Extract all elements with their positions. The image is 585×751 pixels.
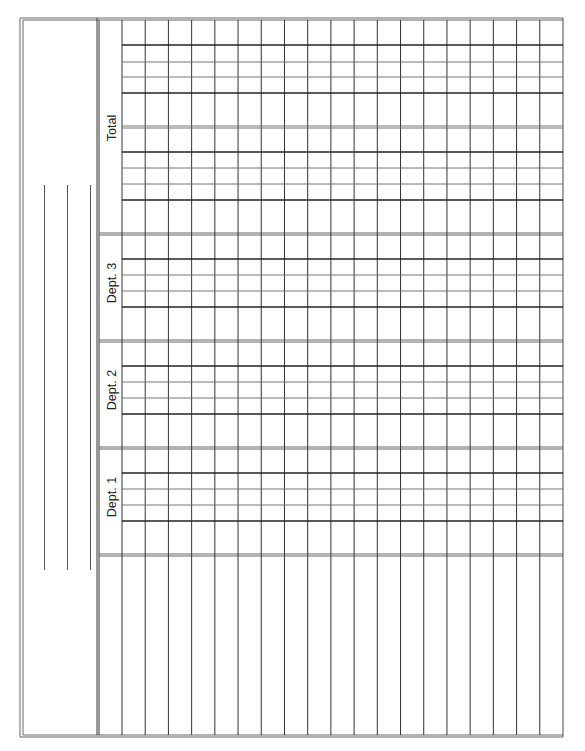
ledger-grid bbox=[0, 0, 585, 751]
ledger-form: TotalDept. 3Dept. 2Dept. 1 bbox=[0, 0, 585, 751]
section-label-dept-3: Dept. 3 bbox=[105, 263, 119, 303]
section-label-dept-2: Dept. 2 bbox=[105, 370, 119, 410]
header-entry-line[interactable] bbox=[90, 185, 91, 570]
header-entry-line[interactable] bbox=[67, 185, 68, 570]
section-label-dept-1: Dept. 1 bbox=[105, 477, 119, 517]
header-entry-line[interactable] bbox=[44, 185, 45, 570]
section-label-total: Total bbox=[105, 115, 119, 141]
